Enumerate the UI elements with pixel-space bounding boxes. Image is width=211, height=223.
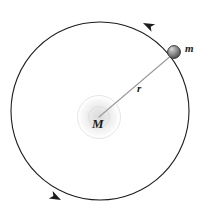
- orbital-diagram-figure: M m r: [0, 0, 211, 223]
- orbit-direction-arrow-bottom: [49, 191, 63, 204]
- radius-label: r: [137, 83, 141, 94]
- orbit-direction-arrow-top: [141, 19, 155, 32]
- central-mass-label: M: [92, 117, 104, 130]
- orbiting-mass-label: m: [185, 43, 194, 54]
- radius-line: [99, 57, 170, 117]
- orbiting-mass-sphere: [168, 46, 181, 59]
- orbit-diagram-svg: [0, 0, 211, 223]
